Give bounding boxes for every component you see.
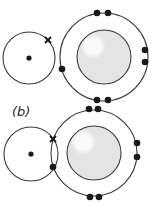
electron-dot-b-6 bbox=[50, 164, 57, 171]
electron-dot-b-2 bbox=[134, 140, 141, 147]
electron-dot-a-6 bbox=[59, 66, 66, 73]
electron-dot-b-1 bbox=[95, 106, 102, 113]
electron-dot-a-3 bbox=[142, 59, 149, 66]
electron-dot-b-4 bbox=[87, 194, 94, 201]
large-atom-core-a bbox=[77, 30, 131, 84]
large-atom-core-b bbox=[67, 126, 121, 180]
electron-dot-a-5 bbox=[105, 97, 112, 104]
panel-label-b: (b) bbox=[12, 104, 30, 119]
electron-dot-b-5 bbox=[96, 194, 103, 201]
nucleus-dot-a bbox=[26, 55, 31, 60]
electron-dot-a-4 bbox=[94, 97, 101, 104]
electron-dot-b-0 bbox=[86, 106, 93, 113]
electron-dot-a-0 bbox=[94, 10, 101, 17]
electron-dot-a-1 bbox=[105, 10, 112, 17]
nucleus-dot-b bbox=[28, 151, 33, 156]
electron-dot-b-3 bbox=[134, 154, 141, 161]
electron-dot-a-2 bbox=[142, 47, 149, 54]
